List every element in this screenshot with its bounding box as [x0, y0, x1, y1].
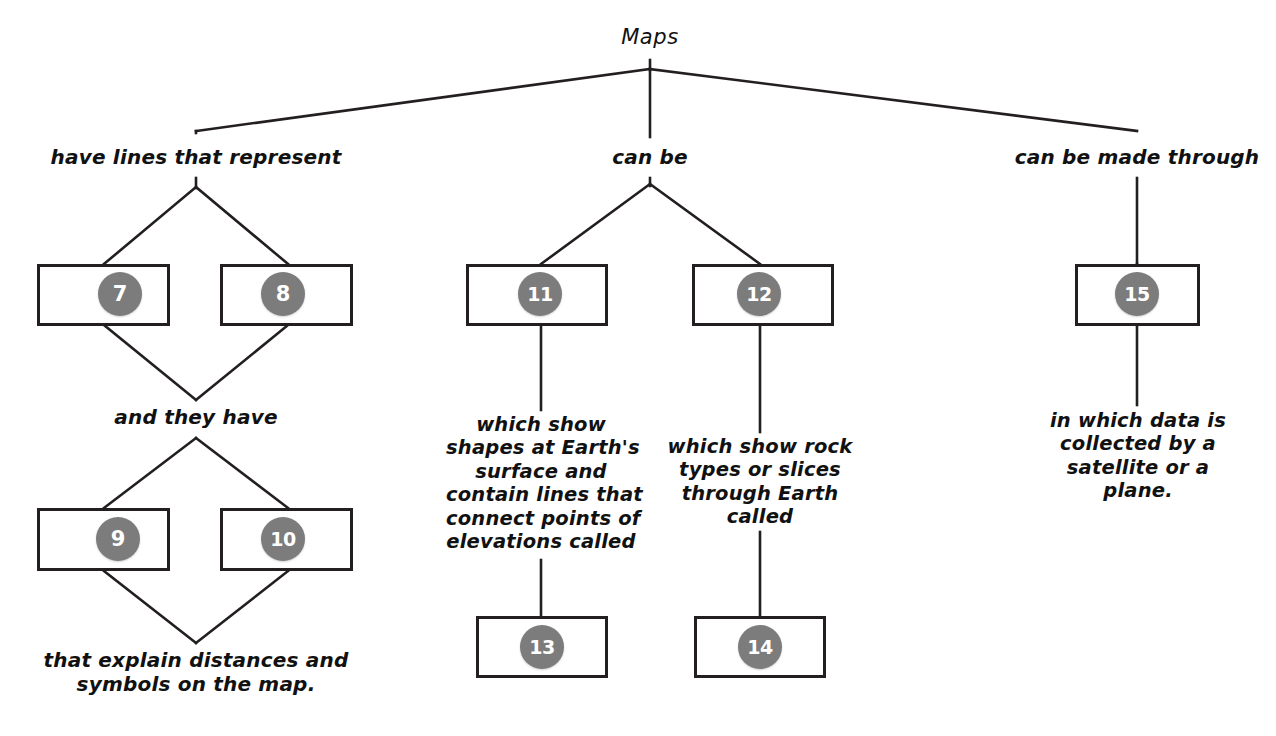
branch-label-middle: can be [570, 146, 730, 170]
answer-badge-14: 14 [738, 625, 782, 669]
answer-badge-7: 7 [98, 272, 142, 316]
answer-badge-8: 8 [261, 272, 305, 316]
connector-left-v-from-9 [104, 571, 196, 643]
connector-root-to-left [196, 69, 650, 131]
answer-badge-9: 9 [96, 517, 140, 561]
connector-middle-v-to-11 [541, 184, 650, 264]
root-title-maps: Maps [555, 25, 745, 50]
connector-root-to-right [650, 69, 1137, 131]
answer-badge-11: 11 [518, 272, 562, 316]
connector-left-v-from-7 [104, 325, 196, 400]
connector-middle-v-to-12 [650, 184, 760, 264]
branch-label-left: have lines that represent [26, 146, 366, 170]
connector-left-v-from-10 [196, 571, 288, 643]
concept-map-diagram: Maps have lines that represent can be ca… [0, 0, 1276, 736]
answer-badge-13: 13 [520, 625, 564, 669]
connector-left-v-from-8 [196, 325, 288, 400]
description-right: in which data is collected by a satellit… [1040, 409, 1236, 503]
branch-label-right: can be made through [1007, 146, 1267, 170]
answer-badge-15: 15 [1115, 272, 1159, 316]
description-middle-right: which show rock types or slices through … [662, 435, 858, 529]
description-middle-left: which show shapes at Earth's surface and… [446, 413, 636, 553]
connector-lines [0, 0, 1276, 736]
connector-left-v-to-9 [104, 438, 196, 508]
branch-label-left-sub: and they have [76, 406, 316, 430]
answer-badge-12: 12 [737, 272, 781, 316]
caption-left-bottom: that explain distances and symbols on th… [8, 648, 384, 697]
answer-badge-10: 10 [261, 517, 305, 561]
connector-left-v-to-10 [196, 438, 288, 508]
connector-left-v-to-7 [104, 187, 196, 264]
connector-left-v-to-8 [196, 187, 288, 264]
